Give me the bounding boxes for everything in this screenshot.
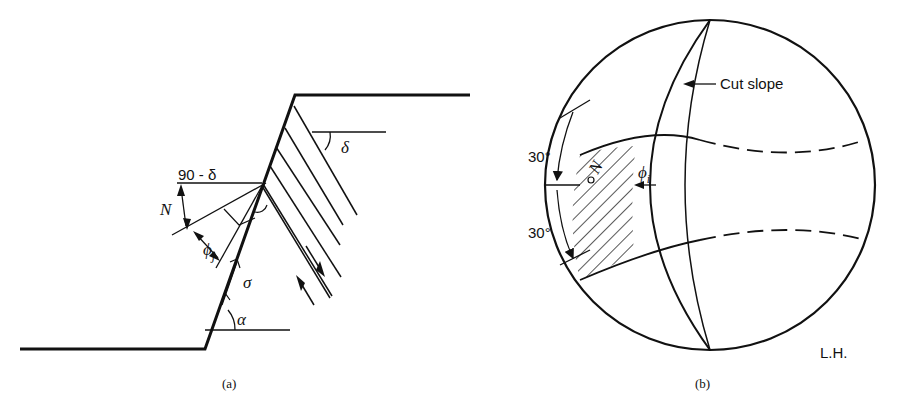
delta-arc xyxy=(325,132,330,150)
figure-b: Cut slope 30° 30° N ϕi L.H. (b) xyxy=(528,20,875,391)
label-angle-upper: 30° xyxy=(528,148,551,165)
label-delta: δ xyxy=(341,138,350,157)
diagram-canvas: 90 - δ δ N ϕj σ α (a) xyxy=(0,0,900,406)
alpha-arc xyxy=(228,310,235,330)
label-phi-j: ϕj xyxy=(203,240,216,263)
cut-slope-great-circle xyxy=(650,20,710,350)
caption-b: (b) xyxy=(695,376,710,391)
label-angle-lower: 30° xyxy=(528,224,551,241)
caption-a: (a) xyxy=(222,376,236,391)
figure-a: 90 - δ δ N ϕj σ α (a) xyxy=(20,95,470,391)
great-circle-2 xyxy=(685,20,710,350)
label-hemisphere: L.H. xyxy=(820,344,848,361)
label-ninety-minus-delta: 90 - δ xyxy=(178,166,216,183)
label-cut-slope: Cut slope xyxy=(720,75,783,92)
label-sigma: σ xyxy=(243,273,252,292)
label-phi-i: ϕi xyxy=(638,163,650,186)
label-alpha: α xyxy=(237,310,247,329)
label-normal-n: N xyxy=(159,200,173,219)
bedding-joints xyxy=(262,106,357,298)
